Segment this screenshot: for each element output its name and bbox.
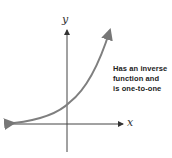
annotation-line-1: Has an inverse bbox=[113, 64, 171, 74]
annotation-box: Has an inverse function and is one-to-on… bbox=[113, 64, 171, 94]
x-axis-label: x bbox=[127, 116, 133, 129]
annotation-line-3: is one-to-one bbox=[113, 84, 171, 94]
annotation-line-2: function and bbox=[113, 74, 171, 84]
exponential-curve bbox=[14, 30, 110, 123]
y-axis-label: y bbox=[62, 13, 68, 26]
